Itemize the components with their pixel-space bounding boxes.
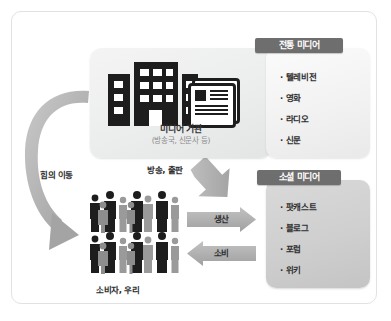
traditional-media-title: 전통 미디어 [255, 38, 343, 53]
building-window [140, 95, 149, 102]
consumption-arrow-label: 소비 [187, 245, 255, 261]
consumers-label: 소비자, 우리 [96, 283, 139, 295]
bullet-icon: · [280, 223, 283, 233]
production-arrow-label: 생산 [187, 211, 255, 227]
bullet-icon: · [280, 72, 283, 82]
media-institution-box: 미디어 기관 (방송국, 신문사 등) [90, 48, 272, 158]
building-window [153, 69, 162, 76]
diagram-canvas: 미디어 기관 (방송국, 신문사 등) ·텔레비전 ·영화 ·라디오 ·신문 전… [0, 0, 391, 321]
list-item-label: 블로그 [286, 223, 309, 233]
newspaper-line [195, 105, 228, 107]
bullet-icon: · [280, 135, 283, 145]
person-figure [156, 232, 168, 273]
list-item-label: 신문 [286, 135, 301, 145]
person-figure [156, 191, 168, 232]
person-figure [119, 197, 127, 232]
list-item[interactable]: ·블로그 [280, 221, 316, 233]
person-figure [143, 196, 153, 232]
bullet-icon: · [280, 114, 283, 124]
newspaper-line [210, 94, 228, 96]
newspaper-icon [188, 78, 236, 122]
bullet-icon: · [280, 265, 283, 275]
building-window [140, 69, 149, 76]
list-item[interactable]: ·라디오 [280, 112, 316, 124]
list-item-label: 영화 [286, 93, 301, 103]
traditional-media-panel: ·텔레비전 ·영화 ·라디오 ·신문 [266, 48, 370, 158]
bullet-icon: · [280, 244, 283, 254]
list-item[interactable]: ·포럼 [280, 242, 316, 254]
person-figure [171, 197, 179, 232]
bullet-icon: · [280, 93, 283, 103]
person-figure [143, 237, 153, 273]
list-item-label: 텔레비전 [286, 72, 316, 82]
person-figure [119, 238, 127, 273]
list-item-label: 라디오 [286, 114, 309, 124]
building-window [114, 94, 123, 101]
building-window [153, 95, 162, 102]
people-row-bottom [88, 232, 184, 274]
list-item[interactable]: ·신문 [280, 133, 316, 145]
building-window [140, 82, 149, 89]
newspaper-line [195, 109, 228, 111]
social-media-items: ·팟캐스트 ·블로그 ·포럼 ·위키 [280, 200, 316, 284]
list-item-label: 팟캐스트 [286, 202, 316, 212]
social-media-panel: ·팟캐스트 ·블로그 ·포럼 ·위키 [266, 180, 370, 288]
power-shift-arrow-label: 힘의 이동 [40, 168, 73, 180]
building-window [166, 95, 173, 102]
media-institution-subcaption: (방송국, 신문사 등) [90, 134, 272, 145]
social-media-title: 소셜 미디어 [257, 170, 341, 185]
list-item[interactable]: ·팟캐스트 [280, 200, 316, 212]
person-figure [171, 238, 179, 273]
newspaper-line [195, 113, 228, 115]
list-item[interactable]: ·위키 [280, 263, 316, 275]
media-icons [104, 58, 264, 126]
building-window [166, 69, 173, 76]
newspaper-line [210, 90, 228, 92]
newspaper-line [210, 98, 228, 100]
building-window [114, 81, 123, 88]
list-item-label: 위키 [286, 265, 301, 275]
broadcast-publish-arrow-label: 방송, 출판 [147, 163, 183, 175]
traditional-media-items: ·텔레비전 ·영화 ·라디오 ·신문 [280, 70, 316, 154]
list-item[interactable]: ·영화 [280, 91, 316, 103]
newspaper-photo [195, 90, 206, 101]
list-item[interactable]: ·텔레비전 [280, 70, 316, 82]
people-row-top [88, 191, 184, 233]
list-item-label: 포럼 [286, 244, 301, 254]
building-window [114, 107, 123, 114]
bullet-icon: · [280, 202, 283, 212]
building-window [153, 82, 162, 89]
building-window [166, 82, 173, 89]
